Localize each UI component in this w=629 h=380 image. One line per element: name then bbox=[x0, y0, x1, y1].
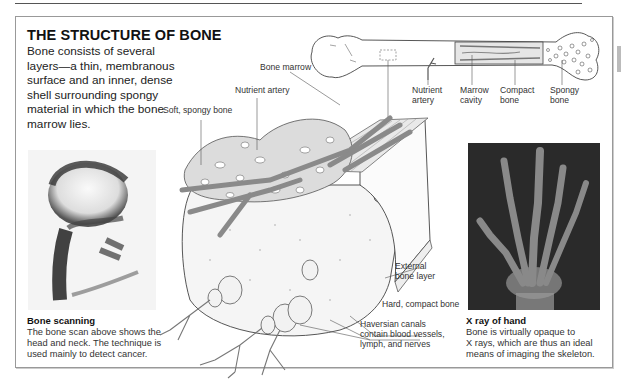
bone-scan-image bbox=[28, 150, 156, 310]
xray-caption: Bone is virtually opaque toX rays, which… bbox=[466, 327, 595, 361]
bone-scan-caption: The bone scan above shows thehead and ne… bbox=[27, 327, 161, 361]
xray-hand-image bbox=[468, 143, 600, 310]
label-nutrient-artery: Nutrient artery bbox=[235, 85, 289, 95]
label-external-bone-layer: Externalbone layer bbox=[395, 261, 435, 281]
label-bone-marrow: Bone marrow bbox=[260, 62, 311, 72]
label-soft-spongy-bone: Soft, spongy bone bbox=[163, 105, 232, 115]
label-haversian-canals: Haversian canalscontain blood vessels,ly… bbox=[360, 319, 445, 349]
bone-scan-heading: Bone scanning bbox=[27, 315, 95, 326]
xray-heading: X ray of hand bbox=[466, 315, 526, 326]
label-hard-compact-bone: Hard, compact bone bbox=[382, 299, 459, 309]
